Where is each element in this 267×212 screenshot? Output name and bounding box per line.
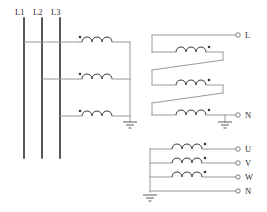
secondary-lower-coil-v — [172, 158, 202, 163]
phase-label-l2: L2 — [33, 7, 42, 17]
primary-coil-group — [78, 36, 130, 116]
transformer-schematic: L1 L2 L3 L N U V W N — [0, 0, 267, 212]
primary-coil-l1 — [82, 37, 112, 42]
secondary-upper-group — [152, 35, 236, 128]
polarity-dot-secondary-lower-v — [204, 157, 207, 160]
terminal-label-l: L — [245, 30, 250, 40]
polarity-dot-secondary-upper-1 — [208, 46, 211, 49]
terminal-marker-u[interactable] — [236, 147, 240, 151]
polarity-dot-primary-l3 — [79, 110, 82, 113]
terminal-label-w: W — [245, 172, 253, 182]
secondary-upper-crossover-1 — [152, 60, 223, 70]
terminal-marker-n-upper[interactable] — [236, 113, 240, 117]
polarity-dot-secondary-upper-3 — [208, 109, 211, 112]
terminal-label-n-lower: N — [245, 186, 251, 196]
secondary-lower-coil-u — [172, 144, 202, 149]
polarity-dot-primary-l2 — [79, 73, 82, 76]
primary-coil-l2 — [82, 74, 112, 79]
secondary-lower-group — [143, 143, 236, 201]
phase-label-l3: L3 — [51, 7, 60, 17]
phase-label-l1: L1 — [15, 7, 24, 17]
schematic-canvas: L1 L2 L3 L N U V W N — [0, 0, 267, 212]
polarity-dot-primary-l1 — [79, 36, 82, 39]
secondary-lower-coil-w — [172, 172, 202, 177]
terminal-marker-l[interactable] — [236, 33, 240, 37]
secondary-upper-coil-1 — [176, 47, 206, 52]
terminal-marker-n-lower[interactable] — [236, 189, 240, 193]
secondary-upper-coil-3 — [176, 110, 206, 115]
primary-coil-l3 — [82, 111, 112, 116]
terminal-marker-w[interactable] — [236, 175, 240, 179]
polarity-dot-secondary-upper-2 — [208, 79, 211, 82]
primary-tap-wire-group — [24, 42, 78, 116]
terminal-label-n-upper: N — [245, 110, 251, 120]
primary-phase-bus-group — [24, 18, 60, 158]
terminal-label-v: V — [245, 158, 252, 168]
polarity-dot-secondary-lower-w — [204, 171, 207, 174]
terminal-marker-v[interactable] — [236, 161, 240, 165]
primary-star-point-group — [123, 42, 137, 128]
terminal-label-u: U — [245, 144, 251, 154]
polarity-dot-secondary-lower-u — [204, 143, 207, 146]
secondary-upper-crossover-2 — [152, 93, 223, 103]
secondary-upper-coil-2 — [176, 80, 206, 85]
terminal-marker-group — [236, 33, 240, 193]
